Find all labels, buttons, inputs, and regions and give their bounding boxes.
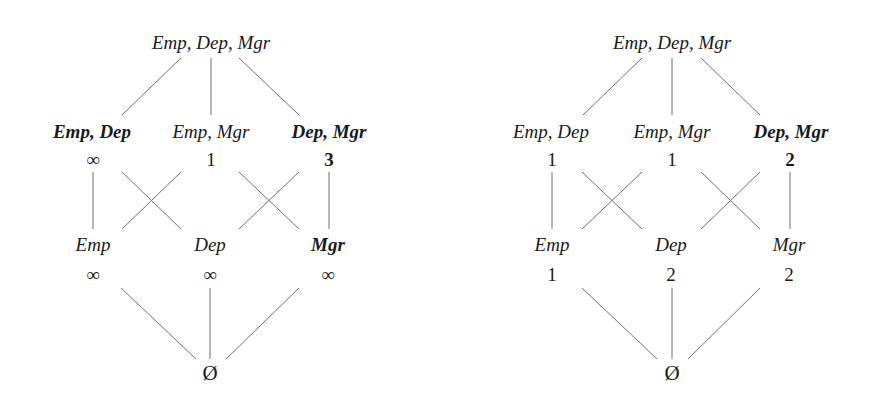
node-top-label: Emp, Dep, Mgr [152,33,270,53]
node-mgr-value: ∞ [321,265,335,285]
node-emp-mgr-label: Emp, Mgr [633,122,710,142]
node-emp-value: ∞ [86,265,100,285]
node-mgr-label: Mgr [311,235,345,255]
node-top-label: Emp, Dep, Mgr [613,33,731,53]
node-emp-value: 1 [547,265,557,285]
left-lattice: Emp, Dep, Mgr Emp, Dep ∞ Emp, Mgr 1 Dep,… [0,0,434,410]
node-mgr-label: Mgr [773,235,806,255]
left-lattice-edges [0,0,434,410]
node-emp-label: Emp [76,235,111,255]
node-dep-label: Dep [194,235,226,255]
right-lattice: Emp, Dep, Mgr Emp, Dep 1 Emp, Mgr 1 Dep,… [434,0,868,410]
node-dep-value: 2 [666,265,676,285]
node-dep-mgr-label: Dep, Mgr [292,122,367,142]
node-emp-dep-label: Emp, Dep [53,122,131,142]
node-dep-mgr-value: 3 [324,150,334,170]
node-emp-dep-label: Emp, Dep [513,122,589,142]
node-dep-label: Dep [655,235,687,255]
node-empty-set: Ø [202,362,217,384]
node-empty-set: Ø [664,362,679,384]
node-emp-dep-value: 1 [547,150,557,170]
node-dep-mgr-value: 2 [785,150,795,170]
node-emp-mgr-value: 1 [206,150,216,170]
node-emp-dep-value: ∞ [86,150,100,170]
node-emp-mgr-label: Emp, Mgr [172,122,249,142]
node-emp-label: Emp [535,235,570,255]
node-dep-mgr-label: Dep, Mgr [754,122,829,142]
node-mgr-value: 2 [784,265,794,285]
right-lattice-edges [434,0,869,410]
node-dep-value: ∞ [203,265,217,285]
node-emp-mgr-value: 1 [667,150,677,170]
